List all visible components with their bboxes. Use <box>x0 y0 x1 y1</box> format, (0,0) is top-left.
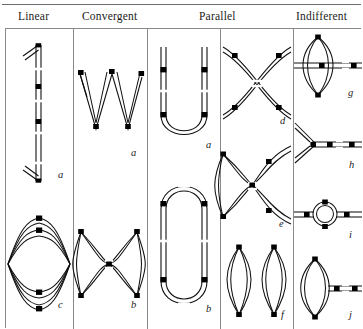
column-header-linear: Linear <box>18 10 49 22</box>
panel-parallel-b: b <box>148 169 220 329</box>
panel-linear-a: a <box>6 29 73 204</box>
panel-caption-convergent-b: b <box>131 299 136 310</box>
panel-indifferent-g: g <box>294 29 362 109</box>
panel-parallel-e: e <box>221 134 293 239</box>
panel-caption-indifferent-j: j <box>349 309 352 320</box>
panel-caption-parallel-b: b <box>206 303 211 314</box>
panel-caption-convergent-a: a <box>131 147 136 158</box>
panel-caption-indifferent-h: h <box>349 159 354 170</box>
panel-parallel-a: a <box>148 29 220 169</box>
panel-indifferent-h: h <box>294 109 362 181</box>
column-header-row: Linear Convergent Parallel Indifferent <box>0 10 363 26</box>
panel-caption-parallel-f: f <box>281 309 284 320</box>
column-header-indifferent: Indifferent <box>296 10 347 22</box>
panel-caption-linear-c: c <box>58 299 63 310</box>
panel-parallel-f: f <box>221 239 293 329</box>
panel-linear-c: c <box>6 204 73 329</box>
panel-caption-parallel-d: d <box>280 115 285 126</box>
panel-caption-indifferent-i: i <box>349 229 352 240</box>
panel-indifferent-i: i <box>294 181 362 251</box>
panel-caption-parallel-a: a <box>206 139 211 150</box>
panel-caption-linear-a: a <box>58 169 63 180</box>
panel-caption-parallel-e: e <box>279 218 284 229</box>
panel-caption-indifferent-g: g <box>348 87 353 98</box>
panel-convergent-a: a <box>74 29 147 204</box>
column-header-convergent: Convergent <box>82 10 137 22</box>
top-horizontal-rule <box>2 4 361 5</box>
panel-convergent-b: b <box>74 204 147 329</box>
column-header-parallel: Parallel <box>199 10 236 22</box>
panel-indifferent-j: j <box>294 251 362 329</box>
panel-grid: a <box>5 28 361 328</box>
panel-parallel-d: d <box>221 29 293 134</box>
